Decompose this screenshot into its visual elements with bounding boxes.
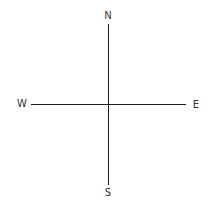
west-label: W (15, 99, 29, 109)
north-label: N (101, 11, 115, 21)
horizontal-axis-line (31, 104, 186, 105)
south-label: S (101, 188, 115, 198)
east-label: E (189, 100, 203, 110)
